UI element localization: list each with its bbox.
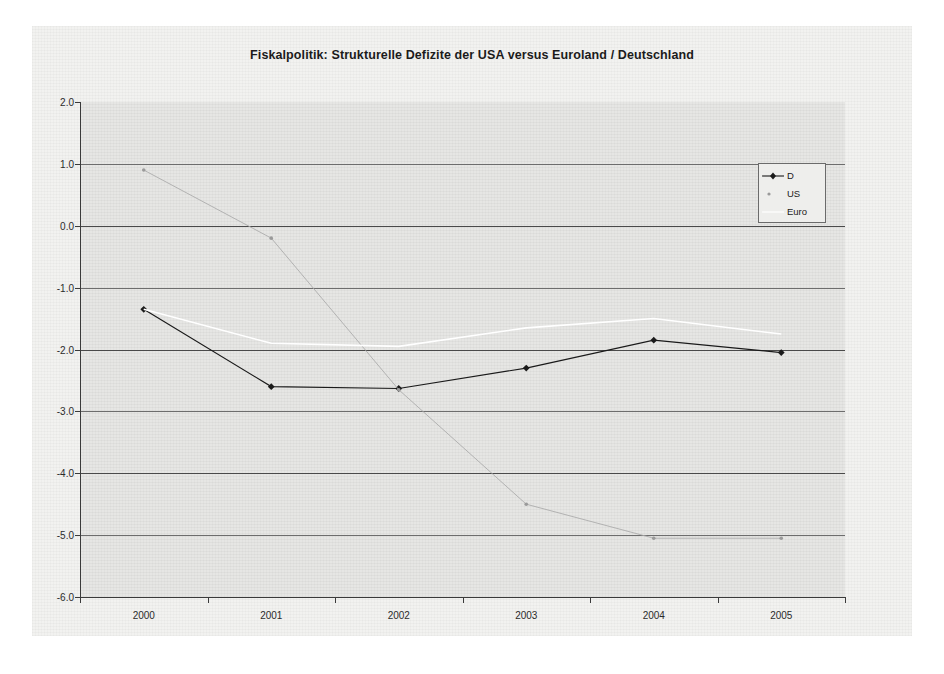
y-axis-tick-label: -4.0 — [32, 468, 74, 479]
data-point-marker-d — [778, 349, 785, 356]
legend-key-us-icon — [759, 185, 787, 203]
x-axis-tick-label: 2001 — [236, 610, 306, 621]
chart-title: Fiskalpolitik: Strukturelle Defizite der… — [32, 48, 912, 62]
data-point-marker-us — [269, 236, 273, 240]
y-axis-tick-label: -5.0 — [32, 530, 74, 541]
chart-screenshot: Fiskalpolitik: Strukturelle Defizite der… — [0, 0, 944, 674]
data-point-marker-d — [523, 365, 530, 372]
y-axis-tick-label: 2.0 — [32, 97, 74, 108]
chart-legend[interactable]: D US Euro — [758, 163, 826, 223]
x-axis-tick-mark — [463, 597, 464, 603]
x-axis-tick-mark — [590, 597, 591, 603]
legend-label-euro: Euro — [787, 207, 807, 217]
x-axis-tick-mark — [845, 597, 846, 603]
data-point-marker-us — [524, 502, 528, 506]
x-axis-tick-label: 2002 — [364, 610, 434, 621]
legend-item-us[interactable]: US — [759, 185, 825, 203]
series-layer — [80, 102, 845, 597]
x-axis-tick-label: 2004 — [619, 610, 689, 621]
legend-key-euro-icon — [759, 203, 787, 221]
data-point-marker-us — [142, 168, 146, 172]
data-point-marker-d — [268, 383, 275, 390]
y-axis-tick-label: -3.0 — [32, 406, 74, 417]
data-point-marker-us — [779, 536, 783, 540]
x-axis-tick-mark — [718, 597, 719, 603]
series-line-d — [144, 309, 782, 388]
legend-label-us: US — [787, 189, 800, 199]
y-axis-tick-label: 0.0 — [32, 220, 74, 231]
legend-item-d[interactable]: D — [759, 167, 825, 185]
data-point-marker-us — [652, 536, 656, 540]
data-point-marker-d — [650, 337, 657, 344]
series-line-euro — [144, 309, 782, 346]
x-axis-tick-label: 2005 — [746, 610, 816, 621]
x-axis-tick-mark — [80, 597, 81, 603]
y-axis-tick-label: -2.0 — [32, 344, 74, 355]
x-axis-tick-mark — [335, 597, 336, 603]
legend-key-d-icon — [759, 167, 787, 185]
data-point-marker-us — [397, 388, 401, 392]
y-axis-tick-label: -6.0 — [32, 592, 74, 603]
x-axis-tick-label: 2000 — [109, 610, 179, 621]
y-axis-tick-label: 1.0 — [32, 158, 74, 169]
y-axis-tick-label: -1.0 — [32, 282, 74, 293]
chart-canvas: Fiskalpolitik: Strukturelle Defizite der… — [32, 26, 912, 636]
legend-item-euro[interactable]: Euro — [759, 203, 825, 221]
series-line-us — [144, 170, 782, 538]
x-axis-tick-label: 2003 — [491, 610, 561, 621]
legend-label-d: D — [787, 171, 794, 181]
x-axis-tick-mark — [208, 597, 209, 603]
